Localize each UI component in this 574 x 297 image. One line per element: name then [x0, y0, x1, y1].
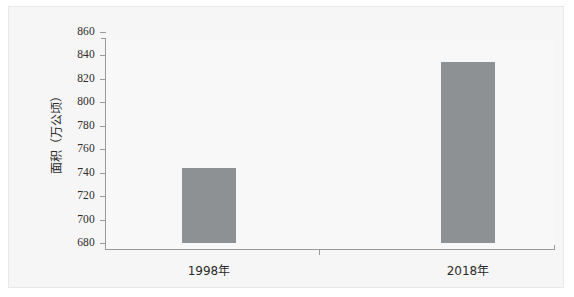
y-axis-tick-label: 780	[55, 120, 95, 132]
x-axis-tick-label: 1998年	[149, 261, 269, 278]
x-axis-line	[105, 249, 555, 250]
y-axis-tick-label: 720	[55, 190, 95, 202]
y-axis-top-cap	[101, 38, 106, 39]
y-axis-tick-label: 680	[55, 237, 95, 249]
y-axis-title-container: 面积（万公顷）	[39, 7, 40, 297]
x-axis-right-cap	[554, 245, 555, 250]
y-axis-tick-label: 800	[55, 96, 95, 108]
y-axis-line	[105, 38, 106, 250]
y-axis-tick-label: 840	[55, 49, 95, 61]
x-axis-tick	[319, 250, 320, 255]
y-axis-tick	[100, 32, 106, 33]
x-axis-tick-label: 2018年	[408, 261, 528, 278]
y-axis-labels: 860840820800780760740720700680	[51, 7, 95, 297]
y-axis-tick-label: 740	[55, 167, 95, 179]
bar	[182, 168, 236, 243]
y-axis-tick-label: 860	[55, 26, 95, 38]
y-axis-tick-label: 820	[55, 73, 95, 85]
y-axis-tick-label: 760	[55, 143, 95, 155]
chart-figure: 面积（万公顷） 860840820800780760740720700680 1…	[0, 0, 574, 297]
chart-panel: 面积（万公顷） 860840820800780760740720700680 1…	[8, 6, 564, 288]
bar	[441, 62, 495, 243]
y-axis-tick-label: 700	[55, 214, 95, 226]
